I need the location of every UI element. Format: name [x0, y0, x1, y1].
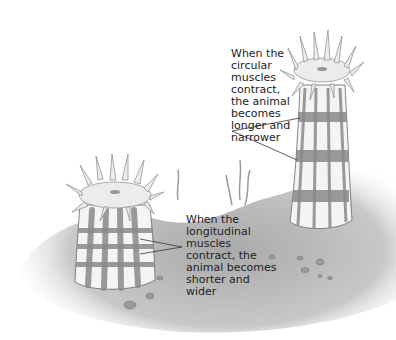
- seaweed: [177, 160, 250, 205]
- sea-anemone-diagram: When the circular muscles contract, the …: [0, 0, 396, 340]
- longitudinal-contraction-label: When the longitudinal muscles contract, …: [186, 214, 277, 298]
- short-anemone: [66, 154, 164, 289]
- circular-contraction-label: When the circular muscles contract, the …: [231, 48, 290, 144]
